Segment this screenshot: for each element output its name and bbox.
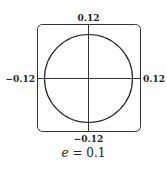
chart-caption: e = 0.1 bbox=[0, 146, 167, 160]
tick-label-right: 0.12 bbox=[143, 74, 165, 84]
caption-value: = 0.1 bbox=[69, 146, 106, 160]
caption-variable: e bbox=[62, 146, 69, 160]
tick-label-top: 0.12 bbox=[78, 13, 100, 23]
tick-label-bottom: −0.12 bbox=[74, 134, 103, 144]
tick-label-left: −0.12 bbox=[6, 74, 35, 84]
